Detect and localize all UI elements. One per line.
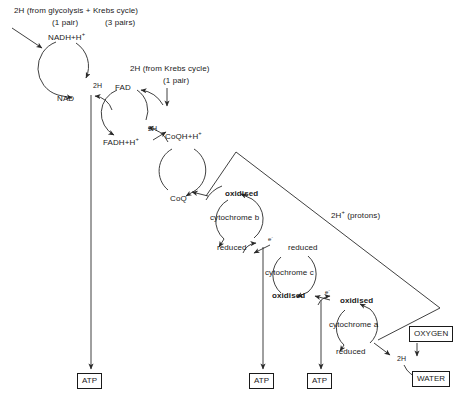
cytochrome-b-oxidised-label: oxidised: [225, 189, 258, 198]
nad-cycle-right-arc: [76, 43, 89, 78]
cytochrome-b-center-label: cytochrome b: [210, 213, 259, 222]
fadh-label: FADH+H+: [103, 138, 139, 147]
fad-label: FAD: [115, 83, 131, 92]
atp-box-1: ATP: [77, 373, 102, 389]
atp-box-3: ATP: [307, 373, 332, 389]
cytochrome-b-reduced-label: reduced: [217, 243, 247, 252]
input-label-pairs-left: (1 pair): [52, 18, 78, 27]
electron-label-1: e-: [268, 235, 273, 244]
coq-cycle-right-arc: [194, 149, 206, 190]
atp-box-2: ATP: [249, 373, 274, 389]
coqh-label: CoQH+H+: [165, 132, 202, 141]
protons-diagonal-upper: [236, 152, 440, 308]
cytochrome-c-center-label: cytochrome c: [265, 268, 314, 277]
electron-transport-chain-diagram: [0, 0, 465, 405]
nadh-label: NADH+H+: [48, 33, 85, 42]
input-arrow-glycolysis-krebs: [12, 28, 42, 48]
input-label-krebs-pairs: (1 pair): [163, 76, 189, 85]
coq-cycle-left-arc: [159, 149, 172, 190]
water-box: WATER: [412, 371, 450, 387]
nad-cycle-left-arc: [38, 42, 58, 95]
electron-label-2: e-: [325, 288, 330, 297]
final-2h-label: 2H: [397, 354, 406, 363]
fad-cycle-left-arc: [101, 90, 117, 135]
nad-label: NAD: [57, 94, 74, 103]
cytochrome-a-reduced-label: reduced: [336, 347, 366, 356]
h-transfer-label-1: 2H: [93, 81, 102, 90]
input-label-krebs: 2H (from Krebs cycle): [130, 64, 209, 73]
input-label-pairs-right: (3 pairs): [105, 18, 135, 27]
cyta-to-2h-arrow: [374, 343, 390, 355]
fad-cycle-right-arc: [137, 90, 148, 120]
h-transfer-label-2: 2H: [148, 124, 157, 133]
cytochrome-a-oxidised-label: oxidised: [340, 296, 373, 305]
input-label-glycolysis-krebs: 2H (from glycolysis + Krebs cycle): [14, 6, 138, 15]
oxygen-box: OXYGEN: [409, 326, 453, 342]
protons-label: 2H+ (protons): [331, 211, 380, 220]
cytochrome-c-reduced-label: reduced: [288, 243, 318, 252]
cytochrome-a-center-label: cytochrome a: [329, 320, 378, 329]
electron-1-arrow: [254, 245, 270, 253]
coq-label: CoQ: [170, 194, 187, 203]
coq-to-cytb-arrow: [192, 192, 208, 196]
cytochrome-c-oxidised-label: oxidised: [272, 291, 305, 300]
